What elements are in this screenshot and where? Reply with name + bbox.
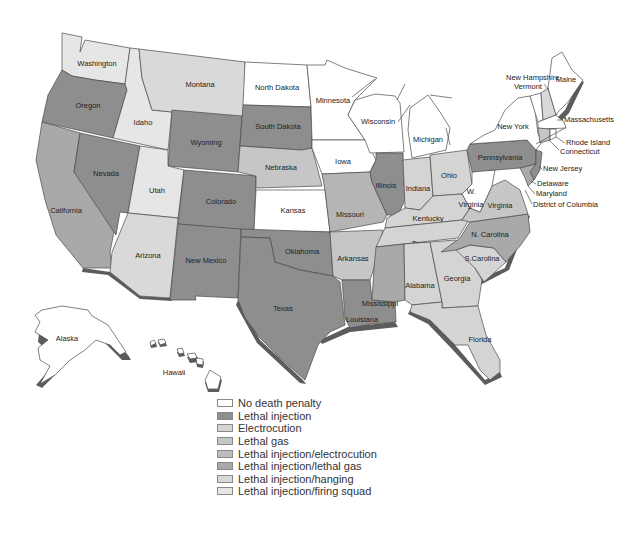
svg-text:Georgia: Georgia — [444, 274, 472, 283]
svg-text:Arizona: Arizona — [135, 251, 161, 260]
state-alaska[interactable]: Alaska — [35, 306, 131, 388]
state-kansas[interactable]: Kansas — [254, 190, 330, 232]
legend-item-lethal-injection: Lethal injection — [217, 410, 377, 423]
svg-text:North Dakota: North Dakota — [255, 83, 300, 92]
svg-text:Arkansas: Arkansas — [337, 254, 369, 263]
svg-text:Kansas: Kansas — [280, 206, 305, 215]
svg-text:Alaska: Alaska — [56, 334, 79, 343]
svg-text:Nevada: Nevada — [93, 169, 120, 178]
svg-text:Hawaii: Hawaii — [163, 368, 186, 377]
svg-text:Wyoming: Wyoming — [190, 138, 221, 147]
state-iowa[interactable]: Iowa — [312, 140, 376, 174]
svg-text:Nebraska: Nebraska — [265, 163, 298, 172]
svg-text:Idaho: Idaho — [134, 118, 153, 127]
svg-text:Wisconsin: Wisconsin — [361, 117, 395, 126]
svg-text:South Dakota: South Dakota — [255, 122, 301, 131]
legend-item-lethal-injection-hanging: Lethal injection/hanging — [217, 473, 377, 486]
svg-text:Oklahoma: Oklahoma — [285, 247, 320, 256]
legend-swatch — [217, 450, 233, 458]
svg-text:Minnesota: Minnesota — [316, 96, 351, 105]
svg-text:N. Carolina: N. Carolina — [471, 230, 509, 239]
legend-swatch — [217, 462, 233, 470]
legend-item-lethal-injection-electrocution: Lethal injection/electrocution — [217, 447, 377, 460]
svg-text:Mississippi: Mississippi — [362, 299, 399, 308]
svg-text:Montana: Montana — [185, 80, 215, 89]
state-michigan[interactable]: Michigan — [408, 95, 450, 158]
state-wyoming[interactable]: Wyoming — [168, 110, 242, 172]
state-hawaii[interactable]: Hawaii — [150, 339, 222, 392]
state-connecticut[interactable] — [538, 128, 550, 143]
state-arizona[interactable]: Arizona — [110, 213, 178, 298]
legend-swatch — [217, 412, 233, 420]
state-new-mexico[interactable]: New Mexico — [170, 224, 241, 300]
svg-text:Virginia: Virginia — [488, 201, 514, 210]
svg-text:Michigan: Michigan — [413, 135, 443, 144]
svg-text:S.Carolina: S.Carolina — [464, 254, 500, 263]
us-map: Washington Oregon California Nevada Idah… — [0, 0, 636, 400]
svg-text:Louisiana: Louisiana — [346, 315, 379, 324]
legend: No death penalty Lethal injection Electr… — [217, 397, 377, 498]
svg-text:Utah: Utah — [149, 186, 165, 195]
svg-text:California: California — [50, 206, 83, 215]
state-montana[interactable]: Montana — [139, 49, 245, 117]
legend-swatch — [217, 475, 233, 483]
svg-text:New York: New York — [497, 122, 529, 131]
svg-text:Vermont: Vermont — [514, 82, 543, 91]
state-maine[interactable]: Maine — [548, 52, 583, 115]
state-north-dakota[interactable]: North Dakota — [243, 62, 311, 107]
legend-item-lethal-gas: Lethal gas — [217, 435, 377, 448]
svg-text:W.: W. — [467, 187, 476, 196]
svg-text:New Mexico: New Mexico — [186, 256, 227, 265]
svg-text:Iowa: Iowa — [335, 157, 352, 166]
svg-text:Rhode Island: Rhode Island — [566, 138, 610, 147]
svg-text:Connecticut: Connecticut — [560, 147, 601, 156]
svg-text:Delaware: Delaware — [537, 179, 569, 188]
svg-text:Florida: Florida — [469, 335, 493, 344]
state-florida[interactable]: Florida — [410, 302, 500, 380]
svg-text:Maryland: Maryland — [536, 189, 567, 198]
svg-text:District of Columbia: District of Columbia — [533, 200, 599, 209]
svg-text:New Hampshire: New Hampshire — [506, 73, 559, 82]
legend-swatch — [217, 487, 233, 495]
svg-text:Missouri: Missouri — [336, 210, 364, 219]
svg-text:Kentucky: Kentucky — [413, 214, 444, 223]
legend-swatch — [217, 424, 233, 432]
legend-item-lethal-injection-lethal-gas: Lethal injection/lethal gas — [217, 460, 377, 473]
svg-text:Oregon: Oregon — [75, 101, 100, 110]
state-colorado[interactable]: Colorado — [178, 170, 256, 231]
state-south-dakota[interactable]: South Dakota — [240, 105, 312, 150]
svg-text:Massachusetts: Massachusetts — [564, 115, 614, 124]
svg-text:Pennsylvania: Pennsylvania — [478, 153, 523, 162]
legend-item-no-death-penalty: No death penalty — [217, 397, 377, 410]
svg-text:Illinois: Illinois — [376, 181, 397, 190]
svg-text:Washington: Washington — [77, 59, 116, 68]
legend-swatch — [217, 437, 233, 445]
svg-text:Texas: Texas — [273, 304, 293, 313]
svg-text:Colorado: Colorado — [206, 197, 236, 206]
svg-text:Indiana: Indiana — [406, 184, 431, 193]
legend-item-electrocution: Electrocution — [217, 422, 377, 435]
svg-text:Ohio: Ohio — [441, 171, 457, 180]
legend-item-lethal-injection-firing-squad: Lethal injection/firing squad — [217, 485, 377, 498]
legend-swatch — [217, 399, 233, 407]
svg-text:New Jersey: New Jersey — [543, 164, 582, 173]
svg-text:Virginia: Virginia — [459, 200, 485, 209]
svg-text:Alabama: Alabama — [405, 281, 435, 290]
